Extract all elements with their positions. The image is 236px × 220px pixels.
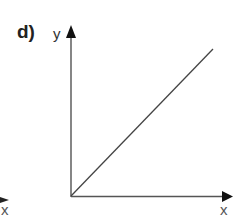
x-axis-label: x: [220, 202, 228, 217]
graph-canvas: [0, 0, 236, 220]
proportional-line: [71, 49, 213, 196]
prev-panel-x-axis-label: x: [1, 202, 9, 217]
panel-label: d): [17, 22, 35, 41]
y-axis-arrowhead: [66, 25, 76, 38]
y-axis-label: y: [53, 26, 61, 41]
